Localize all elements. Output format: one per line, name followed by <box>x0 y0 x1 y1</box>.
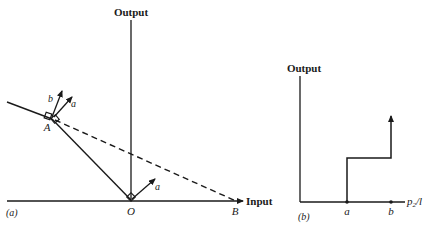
x-axis-label-b: p2/l <box>406 195 422 209</box>
segment-A-O <box>52 119 131 200</box>
panel-label-a: (a) <box>6 207 18 219</box>
panel-label-b: (b) <box>298 211 310 223</box>
panel-a: Output Input O A B a b a (a) <box>6 6 273 219</box>
point-label-A: A <box>43 121 51 133</box>
vector-label-a-at-A: a <box>71 98 76 109</box>
x-axis-label-tail: /l <box>415 195 422 207</box>
vector-a-at-O-icon <box>132 179 155 199</box>
output-axis-label-a: Output <box>114 6 149 18</box>
vector-label-a-at-O: a <box>155 181 160 192</box>
figure-canvas: Output Input O A B a b a (a) Output p2/l… <box>0 0 434 234</box>
vector-a-at-A-icon <box>54 97 72 117</box>
point-label-B: B <box>232 205 239 217</box>
tick-label-a: a <box>344 205 350 217</box>
output-axis-label-b: Output <box>287 62 322 74</box>
tick-dot-a <box>345 200 349 204</box>
vector-label-b-at-A: b <box>48 93 53 104</box>
tick-dot-b <box>389 200 393 204</box>
dashed-segment-A-B <box>55 120 236 201</box>
step-function-curve <box>347 116 391 202</box>
input-axis-label: Input <box>246 195 273 207</box>
point-label-O: O <box>127 205 135 217</box>
tick-label-b: b <box>388 205 394 217</box>
panel-b: Output p2/l a b (b) <box>287 62 422 223</box>
